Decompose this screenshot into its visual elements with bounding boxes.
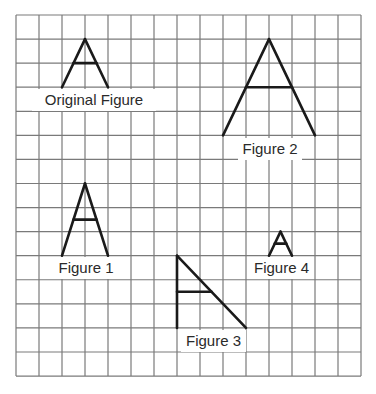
label-original-figure: Original Figure — [32, 89, 156, 111]
label-figure-3: Figure 3 — [181, 330, 246, 352]
label-figure-1: Figure 1 — [55, 257, 117, 279]
label-figure-2: Figure 2 — [238, 138, 302, 160]
label-figure-4: Figure 4 — [250, 257, 313, 279]
